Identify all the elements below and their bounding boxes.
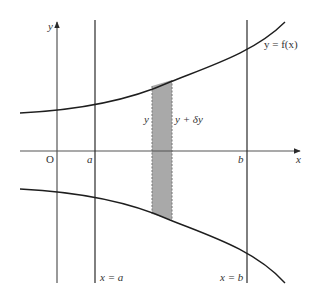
shaded-strip xyxy=(152,80,172,220)
strip-right-label: y + δy xyxy=(174,113,203,125)
line-b-label: x = b xyxy=(219,271,244,283)
b-tick-label: b xyxy=(238,153,244,165)
y-axis-label: y xyxy=(47,20,53,32)
strip-left-label: y xyxy=(143,113,149,125)
diagram: y x O a b y = f(x) x = a x = b y y + δy xyxy=(0,0,321,303)
curve-label: y = f(x) xyxy=(264,38,298,51)
a-tick-label: a xyxy=(87,153,93,165)
origin-label: O xyxy=(46,153,54,165)
x-axis-label: x xyxy=(295,153,301,165)
line-a-label: x = a xyxy=(99,271,124,283)
